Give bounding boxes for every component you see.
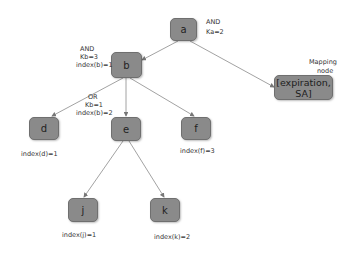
node-f: f bbox=[181, 117, 211, 140]
edge-a-b bbox=[142, 41, 178, 60]
label-b-index: index(b)=1 bbox=[76, 61, 113, 69]
label-e-k: Kb=1 bbox=[85, 101, 103, 109]
label-e-index: index(b)=2 bbox=[76, 109, 113, 117]
mapping-node: [expiration, SA] bbox=[274, 75, 333, 100]
edge-b-f bbox=[130, 78, 194, 116]
label-mapping-2: node bbox=[317, 67, 333, 75]
label-mapping-1: Mapping bbox=[309, 58, 337, 66]
tree-diagram: a b d e f j k [expiration, SA] AND Ka=2 … bbox=[0, 0, 355, 254]
node-j: j bbox=[68, 198, 98, 222]
label-b-op: AND bbox=[80, 45, 94, 53]
edge-a-mapping bbox=[190, 41, 274, 87]
label-j-index: index(j)=1 bbox=[62, 231, 96, 239]
edge-e-k bbox=[129, 141, 164, 197]
label-a-op: AND bbox=[206, 18, 220, 26]
label-f-index: index(f)=3 bbox=[180, 147, 215, 155]
node-k: k bbox=[150, 198, 180, 222]
label-k-index: index(k)=2 bbox=[154, 233, 190, 241]
label-e-op: OR bbox=[88, 93, 98, 101]
node-d: d bbox=[29, 117, 59, 140]
label-a-k: Ka=2 bbox=[206, 28, 224, 36]
node-e: e bbox=[111, 117, 141, 141]
edge-e-j bbox=[84, 141, 123, 197]
node-a: a bbox=[170, 18, 197, 41]
node-b: b bbox=[111, 52, 142, 78]
label-b-k: Kb=3 bbox=[80, 53, 98, 61]
label-d-index: index(d)=1 bbox=[21, 150, 58, 158]
